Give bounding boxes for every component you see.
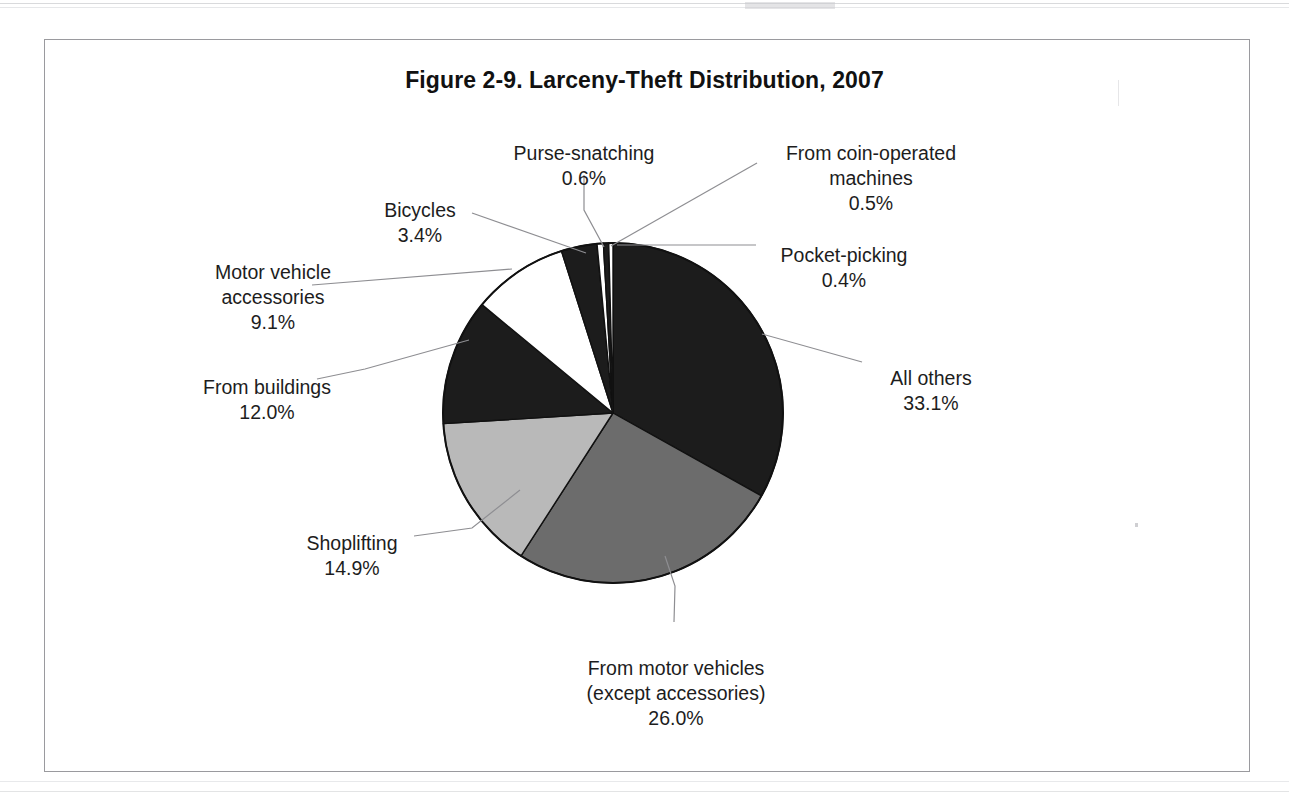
label-from-buildings-name: From buildings [203,376,331,398]
label-purse-snatching-value: 0.6% [488,166,680,191]
label-bicycles: Bicycles 3.4% [358,173,482,273]
label-from-motor-vehicles: From motor vehicles (except accessories)… [548,631,804,756]
label-purse-snatching-name: Purse-snatching [514,142,655,164]
label-motor-accessories-value: 9.1% [178,310,368,335]
label-from-motor-vehicles-name: From motor vehicles (except accessories) [587,657,766,704]
label-from-buildings: From buildings 12.0% [172,350,362,450]
leader-line-bicycles [472,213,586,253]
label-shoplifting: Shoplifting 14.9% [284,506,420,606]
label-from-motor-vehicles-value: 26.0% [548,706,804,731]
label-coin-operated-name: From coin-operated machines [786,142,956,189]
label-from-buildings-value: 12.0% [172,400,362,425]
label-shoplifting-value: 14.9% [284,556,420,581]
label-shoplifting-name: Shoplifting [306,532,397,554]
label-pocket-picking-value: 0.4% [760,268,928,293]
label-pocket-picking: Pocket-picking 0.4% [760,218,928,318]
label-bicycles-name: Bicycles [384,199,456,221]
label-all-others-value: 33.1% [866,391,996,416]
label-pocket-picking-name: Pocket-picking [781,244,908,266]
label-bicycles-value: 3.4% [358,223,482,248]
label-coin-operated-value: 0.5% [760,191,982,216]
label-motor-accessories-name: Motor vehicle accessories [215,261,331,308]
label-purse-snatching: Purse-snatching 0.6% [488,116,680,216]
pie-slice-group: All others 33.1%From motor vehicles (exc… [443,243,783,583]
leader-line-all-others [762,334,862,362]
label-all-others: All others 33.1% [866,341,996,441]
label-all-others-name: All others [890,367,971,389]
label-motor-accessories: Motor vehicle accessories 9.1% [178,235,368,360]
